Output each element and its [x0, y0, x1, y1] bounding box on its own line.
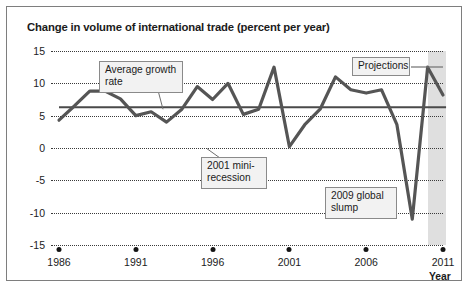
x-axis-tick-dot [57, 247, 62, 252]
y-axis-tick-label: 0 [15, 142, 45, 154]
x-axis-tick-dot [441, 247, 446, 252]
x-axis-title: Year [429, 271, 451, 282]
y-axis-tick-label: -15 [15, 239, 45, 251]
y-axis-tick-label: 5 [15, 110, 45, 122]
annotation-2009-global-slump: 2009 global slump [325, 187, 397, 219]
x-axis-tick-dot [287, 247, 292, 252]
y-axis-tick-label: -10 [15, 207, 45, 219]
y-axis-tick-label: -5 [15, 174, 45, 186]
x-axis-tick-dot [210, 247, 215, 252]
x-axis-tick-label: 2001 [278, 256, 301, 268]
gridline [51, 245, 443, 246]
annotation-2001-mini-recession: 2001 mini- recession [201, 157, 267, 189]
x-axis-tick-label: 1986 [47, 256, 70, 268]
x-axis-tick-label: 2011 [432, 256, 455, 268]
chart-frame: Change in volume of international trade … [6, 6, 462, 281]
x-axis-tick-label: 1996 [201, 256, 224, 268]
y-axis-tick-label: 15 [15, 45, 45, 57]
annotation-average-growth-rate: Average growth rate [99, 61, 183, 93]
chart-title: Change in volume of international trade … [27, 21, 330, 33]
x-axis-tick-dot [133, 247, 138, 252]
y-axis-tick-label: 10 [15, 77, 45, 89]
x-axis-tick-dot [364, 247, 369, 252]
x-axis-tick-label: 2006 [355, 256, 378, 268]
x-axis-tick-label: 1991 [124, 256, 147, 268]
annotation-projections: Projections [352, 57, 410, 76]
